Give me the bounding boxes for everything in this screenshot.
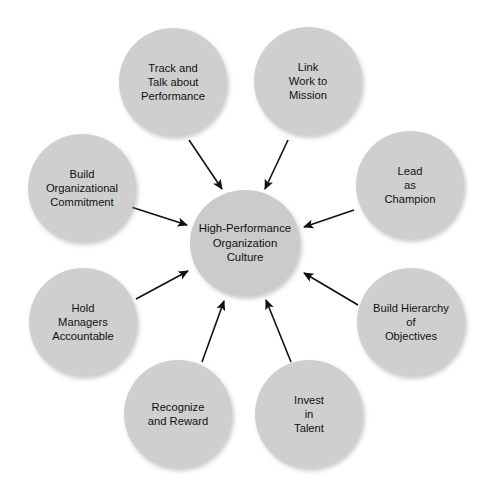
node-invest-in-talent[interactable]: Invest in Talent <box>255 360 363 468</box>
arrow-link-work-to-mission-to-center <box>265 140 288 189</box>
node-track-and-talk-about-performance[interactable]: Track and Talk about Performance <box>119 28 227 136</box>
node-label: Hold Managers Accountable <box>46 301 120 344</box>
node-hold-managers-accountable[interactable]: Hold Managers Accountable <box>29 268 137 376</box>
node-label: Track and Talk about Performance <box>135 61 211 104</box>
arrow-build-organizational-commitment-to-center <box>128 206 187 225</box>
node-label: Build Hierarchy of Objectives <box>367 301 455 344</box>
arrow-track-and-talk-about-performance-to-center <box>189 140 222 189</box>
center-node-high-performance-organization-culture[interactable]: High-Performance Organization Culture <box>190 190 300 296</box>
node-recognize-and-reward[interactable]: Recognize and Reward <box>124 360 232 468</box>
node-link-work-to-mission[interactable]: Link Work to Mission <box>254 27 362 135</box>
node-label: Invest in Talent <box>288 393 330 436</box>
node-label: Link Work to Mission <box>283 60 333 103</box>
node-build-hierarchy-of-objectives[interactable]: Build Hierarchy of Objectives <box>357 268 465 376</box>
center-node-label: High-Performance Organization Culture <box>193 221 297 265</box>
diagram-canvas: High-Performance Organization Culture Tr… <box>0 0 485 497</box>
arrow-invest-in-talent-to-center <box>266 300 291 362</box>
node-label: Lead as Champion <box>379 164 442 207</box>
arrow-hold-managers-accountable-to-center <box>136 271 188 299</box>
arrow-recognize-and-reward-to-center <box>202 301 224 362</box>
node-lead-as-champion[interactable]: Lead as Champion <box>356 131 464 239</box>
node-label: Recognize and Reward <box>142 400 214 429</box>
node-build-organizational-commitment[interactable]: Build Organizational Commitment <box>28 134 136 242</box>
node-label: Build Organizational Commitment <box>40 167 124 210</box>
arrow-build-hierarchy-of-objectives-to-center <box>304 273 358 305</box>
arrow-lead-as-champion-to-center <box>304 210 354 227</box>
